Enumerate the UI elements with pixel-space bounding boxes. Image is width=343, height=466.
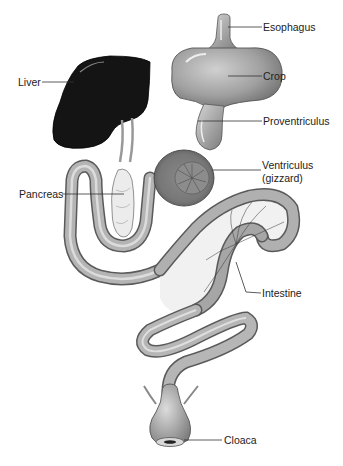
label-cloaca: Cloaca — [224, 434, 257, 446]
label-ventriculus: Ventriculus — [262, 159, 313, 171]
label-pancreas: Pancreas — [19, 188, 63, 200]
diagram-illustration — [0, 0, 343, 466]
ventriculus-gizzard — [154, 150, 214, 206]
liver — [53, 56, 150, 148]
cloaca — [150, 384, 191, 447]
pancreas — [112, 169, 134, 237]
label-esophagus: Esophagus — [263, 21, 316, 33]
label-intestine: Intestine — [262, 287, 302, 299]
bile-ducts — [120, 118, 133, 162]
label-crop: Crop — [263, 70, 286, 82]
proventriculus — [196, 104, 224, 150]
esophagus — [206, 14, 240, 50]
label-gizzard: (gizzard) — [262, 172, 303, 184]
label-proventriculus: Proventriculus — [263, 115, 330, 127]
label-liver: Liver — [18, 76, 41, 88]
